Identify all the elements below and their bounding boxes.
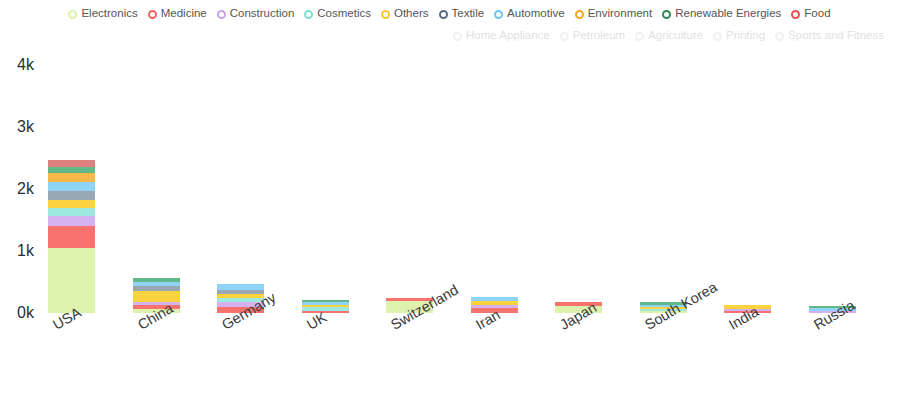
y-axis-tick-label: 1k	[17, 242, 34, 260]
legend-item-label: Food	[804, 8, 830, 20]
bar-group: USAChinaGermanyUKSwitzerlandIranJapanSou…	[36, 55, 899, 313]
legend-item-renewable-energies[interactable]: Renewable Energies	[662, 8, 781, 20]
legend-item-label: Environment	[588, 8, 653, 20]
legend-item-label: Sports and Fitness	[788, 30, 884, 42]
y-axis-tick-label: 4k	[17, 56, 34, 74]
bar-segment[interactable]	[48, 173, 95, 182]
legend-marker-icon	[68, 10, 77, 19]
bar-segment[interactable]	[48, 182, 95, 191]
legend-item-environment[interactable]: Environment	[575, 8, 653, 20]
legend-item-label: Automotive	[507, 8, 565, 20]
legend-item-medicine[interactable]: Medicine	[148, 8, 207, 20]
legend-item-label: Agriculture	[648, 30, 703, 42]
legend-item-label: Electronics	[81, 8, 137, 20]
legend-marker-icon	[381, 10, 390, 19]
bar-slot	[640, 55, 722, 313]
bar-segment[interactable]	[48, 208, 95, 216]
legend-item-label: Medicine	[161, 8, 207, 20]
legend-marker-icon	[713, 32, 722, 41]
y-axis-tick-label: 2k	[17, 180, 34, 198]
bar-slot	[133, 55, 215, 313]
bar-slot	[809, 55, 891, 313]
bar-slot	[724, 55, 806, 313]
legend-item-electronics[interactable]: Electronics	[68, 8, 137, 20]
legend-item-label: Others	[394, 8, 429, 20]
legend-item-label: Construction	[230, 8, 295, 20]
legend-marker-icon	[775, 32, 784, 41]
bar-segment[interactable]	[48, 160, 95, 167]
y-axis-tick-label: 3k	[17, 118, 34, 136]
legend-item-printing[interactable]: Printing	[713, 30, 765, 42]
y-axis: 0k1k2k3k4k	[0, 55, 40, 325]
legend-marker-icon	[453, 32, 462, 41]
axis-baseline	[36, 313, 899, 314]
bar-segment[interactable]	[48, 200, 95, 208]
bar-slot	[471, 55, 553, 313]
legend-item-label: Cosmetics	[317, 8, 371, 20]
legend-item-food[interactable]: Food	[791, 8, 830, 20]
legend-marker-icon	[662, 10, 671, 19]
legend-row-inactive: Home AppliancePetroleumAgriculturePrinti…	[0, 25, 899, 47]
legend-item-others[interactable]: Others	[381, 8, 429, 20]
legend-item-label: Petroleum	[573, 30, 625, 42]
legend-marker-icon	[148, 10, 157, 19]
bar-slot	[48, 55, 130, 313]
legend-item-agriculture[interactable]: Agriculture	[635, 30, 703, 42]
bar-slot	[217, 55, 299, 313]
legend-item-cosmetics[interactable]: Cosmetics	[304, 8, 371, 20]
legend-item-label: Textile	[452, 8, 485, 20]
legend-item-textile[interactable]: Textile	[439, 8, 485, 20]
legend-marker-icon	[217, 10, 226, 19]
plot-area: 0k1k2k3k4k USAChinaGermanyUKSwitzerlandI…	[0, 55, 899, 397]
bar-segment[interactable]	[48, 226, 95, 248]
legend-marker-icon	[439, 10, 448, 19]
legend-marker-icon	[560, 32, 569, 41]
bar-slot	[386, 55, 468, 313]
legend-item-label: Printing	[726, 30, 765, 42]
legend-marker-icon	[791, 10, 800, 19]
legend-item-sports-and-fitness[interactable]: Sports and Fitness	[775, 30, 884, 42]
legend-marker-icon	[575, 10, 584, 19]
legend-marker-icon	[494, 10, 503, 19]
legend-row-active: ElectronicsMedicineConstructionCosmetics…	[0, 3, 899, 25]
bar-segment[interactable]	[48, 191, 95, 200]
legend-item-label: Renewable Energies	[675, 8, 781, 20]
y-axis-tick-label: 0k	[17, 304, 34, 322]
legend-marker-icon	[635, 32, 644, 41]
bar-slot	[302, 55, 384, 313]
bar-segment[interactable]	[48, 248, 95, 313]
legend-item-automotive[interactable]: Automotive	[494, 8, 565, 20]
legend-item-home-appliance[interactable]: Home Appliance	[453, 30, 550, 42]
bar-slot	[555, 55, 637, 313]
bar-segment[interactable]	[48, 216, 95, 227]
bar-segment[interactable]	[133, 291, 180, 302]
legend-item-construction[interactable]: Construction	[217, 8, 295, 20]
legend-item-petroleum[interactable]: Petroleum	[560, 30, 625, 42]
legend-marker-icon	[304, 10, 313, 19]
stacked-bar[interactable]	[302, 300, 349, 313]
stacked-bar[interactable]	[48, 160, 95, 313]
legend-item-label: Home Appliance	[466, 30, 550, 42]
chart-legend: ElectronicsMedicineConstructionCosmetics…	[0, 0, 899, 47]
